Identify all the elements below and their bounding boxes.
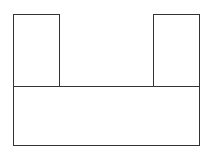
base-rect (14, 87, 200, 146)
right-upright-rect (154, 15, 200, 87)
diagram-canvas (0, 0, 210, 163)
diagram-shapes (14, 15, 200, 146)
u-shape-diagram (0, 0, 210, 163)
left-upright-rect (14, 15, 60, 87)
